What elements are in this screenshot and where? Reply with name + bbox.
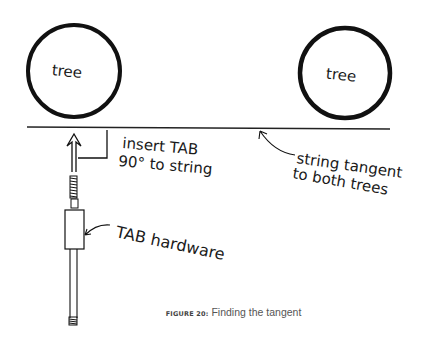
right-tree-label: tree (325, 65, 357, 86)
figure-caption: FIGURE 20: Finding the tangent (0, 306, 427, 318)
left-tree-label: tree (51, 61, 83, 82)
tab-bottom-threads (69, 317, 77, 325)
tab-up-arrow-icon (67, 134, 81, 172)
figure-caption-text: Finding the tangent (209, 306, 302, 318)
right-angle-marker (78, 130, 107, 158)
insert-tab-label-line2: 90° to string (118, 152, 213, 178)
right-tree: tree (300, 28, 390, 118)
tangent-diagram: tree tree (0, 0, 427, 348)
tab-collar (71, 199, 78, 208)
tab-hardware-body (65, 210, 84, 249)
tab-threads (70, 176, 77, 198)
tab-hardware-label: TAB hardware (113, 222, 226, 264)
string-tangent-arrow-icon (259, 131, 295, 155)
string-tangent-line (27, 127, 390, 129)
figure-number: FIGURE 20: (166, 310, 209, 318)
tab-hardware-arrow-icon (85, 225, 110, 235)
left-tree: tree (28, 25, 120, 117)
